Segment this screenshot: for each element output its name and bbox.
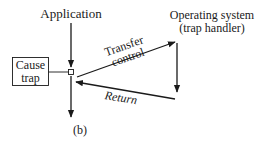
figure-caption: (b)	[73, 123, 87, 137]
cause-trap-label-line2: trap	[21, 71, 40, 85]
return-label: Return	[103, 88, 139, 107]
application-label: Application	[40, 6, 102, 21]
os-label-line1: Operating system	[170, 8, 255, 22]
os-label-line2: (trap handler)	[179, 21, 245, 35]
cause-trap-label-line1: Cause	[16, 58, 45, 72]
trap-point-marker	[69, 70, 74, 75]
trap-diagram: Application Cause trap Transfer control …	[0, 0, 262, 146]
return-label-group: Return	[103, 88, 139, 107]
